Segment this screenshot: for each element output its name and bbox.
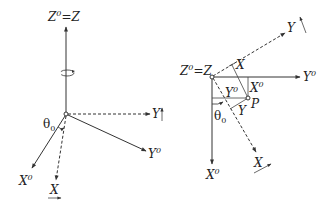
inner-y-label: Y	[238, 104, 247, 118]
rotation-arrow-icon	[60, 70, 75, 76]
y0-axis	[68, 115, 146, 151]
inner-x0-label: X0	[249, 80, 264, 95]
inner-x-label: X	[235, 58, 245, 72]
left-diagram: Z0=Z Y Y0 X0 X θ0	[18, 9, 162, 198]
z-axis-label-right: Z0=Z	[179, 63, 212, 78]
x-axis-label: X	[49, 183, 59, 197]
point-p	[246, 96, 250, 100]
coordinate-rotation-diagram: Z0=Z Y Y0 X0 X θ0 Z0=Z Y0 X0	[0, 0, 331, 208]
y-axis-dashed-right	[213, 33, 285, 76]
x-axis-dashed	[56, 116, 66, 180]
right-diagram: Z0=Z Y0 X0 Y X X X0 Y0 Y P θ0	[179, 17, 316, 182]
theta-arc	[58, 127, 64, 129]
theta-label-right: θ0	[214, 109, 226, 125]
x0-axis-label: X0	[18, 173, 33, 188]
theta-label: θ0	[43, 117, 55, 133]
z-axis-label: Z0=Z	[47, 9, 80, 24]
y-axis-label: Y	[152, 107, 161, 121]
x0-axis-label-right: X0	[205, 167, 220, 182]
origin-point-right	[210, 75, 214, 79]
theta-arc-right	[212, 102, 223, 104]
y0-axis-label-right: Y0	[303, 69, 316, 84]
x-axis-label-right: X	[253, 156, 263, 170]
y-axis-label-right: Y	[287, 21, 296, 35]
origin-point	[64, 112, 68, 116]
p-label: P	[250, 97, 260, 111]
y0-axis-label: Y0	[148, 146, 161, 161]
y-direction-arrow-right	[300, 17, 306, 33]
